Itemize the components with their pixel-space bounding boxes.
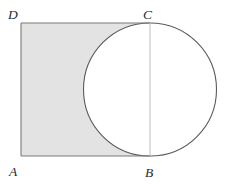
shaded-region xyxy=(21,23,150,156)
shaded-region-fill xyxy=(21,23,150,156)
geometry-figure: A B C D xyxy=(0,0,225,184)
vertex-label-b: B xyxy=(145,165,153,180)
vertex-label-d: D xyxy=(7,7,18,22)
vertex-label-a: A xyxy=(8,164,18,179)
figure-canvas: A B C D xyxy=(0,0,225,184)
vertex-label-c: C xyxy=(143,7,153,22)
